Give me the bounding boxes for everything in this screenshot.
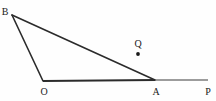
segment-B-O bbox=[12, 15, 43, 81]
point-marker-Q bbox=[136, 52, 140, 56]
vertex-label-Q: Q bbox=[134, 39, 141, 49]
vertex-label-P: P bbox=[205, 87, 211, 97]
vertex-label-B: B bbox=[2, 7, 9, 17]
vertex-label-O: O bbox=[40, 87, 47, 97]
segment-O-A bbox=[43, 80, 155, 81]
figure-canvas bbox=[0, 0, 216, 101]
vertex-label-A: A bbox=[152, 87, 159, 97]
geometry-figure: B O A P Q bbox=[0, 0, 216, 101]
